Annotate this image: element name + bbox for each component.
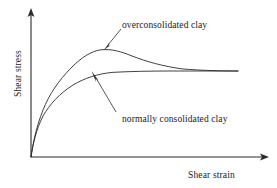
normally-consolidated-leader-line <box>96 78 116 112</box>
label-overconsolidated-clay: overconsolidated clay <box>122 20 207 30</box>
x-axis-label: Shear strain <box>188 170 235 180</box>
y-axis <box>28 8 35 157</box>
overconsolidated-leader-line <box>108 29 121 45</box>
normally-consolidated-leader <box>92 71 117 112</box>
x-axis <box>31 154 269 161</box>
figure-canvas: overconsolidated clay normally consolida… <box>0 0 277 188</box>
curve-overconsolidated-clay <box>31 50 238 157</box>
label-normally-consolidated-clay: normally consolidated clay <box>122 114 228 124</box>
overconsolidated-leader <box>104 29 122 51</box>
y-axis-label: Shear stress <box>13 50 23 97</box>
shear-stress-strain-figure: overconsolidated clay normally consolida… <box>0 0 277 188</box>
